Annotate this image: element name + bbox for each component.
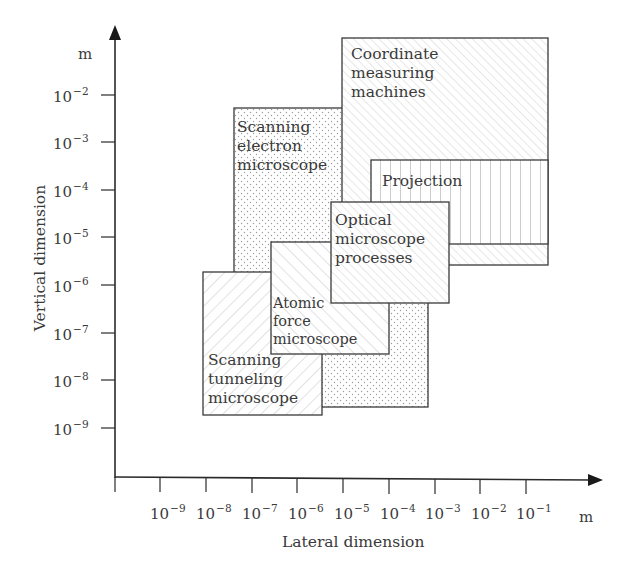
y-tick-label: 10−3 (53, 132, 89, 153)
x-tick-label: 10−6 (288, 502, 324, 523)
label-scanning-electron-microscope: Scanning electron microscope (237, 118, 327, 175)
y-tick-label: 10−6 (53, 275, 89, 296)
y-axis-unit: m (78, 45, 92, 63)
y-tick-label: 10−9 (53, 418, 89, 439)
y-axis-title: Vertical dimension (31, 183, 49, 333)
diagram-canvas (0, 0, 627, 585)
x-tick-label: 10−2 (471, 502, 507, 523)
label-coordinate-measuring-machines: Coordinate measuring machines (351, 45, 438, 102)
x-tick-label: 10−4 (380, 502, 416, 523)
label-atomic-force-microscope: Atomic force microscope (273, 294, 357, 348)
y-tick-label: 10−5 (53, 227, 89, 248)
y-tick-label: 10−8 (53, 370, 89, 391)
x-tick-label: 10−7 (242, 502, 278, 523)
y-tick-label: 10−4 (53, 180, 89, 201)
y-tick-label: 10−2 (53, 85, 89, 106)
label-projection: Projection (382, 172, 462, 191)
x-tick-label: 10−9 (150, 502, 186, 523)
x-tick-label: 10−3 (425, 502, 461, 523)
x-axis-title: Lateral dimension (282, 533, 424, 551)
label-optical-microscope-processes: Optical microscope processes (335, 211, 425, 268)
x-tick-label: 10−8 (196, 502, 232, 523)
y-tick-label: 10−7 (53, 323, 89, 344)
x-axis-arrow-icon (588, 474, 603, 486)
x-tick-label: 10−5 (334, 502, 370, 523)
x-tick-label: 10−1 (516, 502, 552, 523)
y-axis-arrow-icon (109, 25, 121, 40)
y-axis (101, 25, 121, 478)
x-axis (115, 474, 603, 494)
x-axis-unit: m (579, 508, 593, 526)
label-scanning-tunneling-microscope: Scanning tunneling microscope (208, 351, 298, 408)
